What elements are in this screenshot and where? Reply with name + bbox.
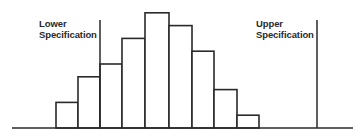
histogram-bar [192, 51, 214, 128]
histogram-bar [145, 13, 169, 128]
upper-spec-label-line1: Upper [256, 18, 314, 29]
lower-spec-label-line1: Lower [39, 18, 97, 29]
lower-specification-label: Lower Specification [39, 18, 97, 40]
upper-specification-label: Upper Specification [256, 18, 314, 40]
upper-spec-label-line2: Specification [256, 29, 314, 40]
histogram-bar [122, 38, 145, 128]
histogram-bar [78, 77, 100, 128]
lower-spec-label-line2: Specification [39, 29, 97, 40]
histogram-bar [169, 26, 192, 128]
histogram-bar [214, 90, 237, 128]
histogram-bar [237, 115, 259, 128]
histogram-bar [100, 64, 122, 128]
histogram-bar [56, 102, 78, 128]
